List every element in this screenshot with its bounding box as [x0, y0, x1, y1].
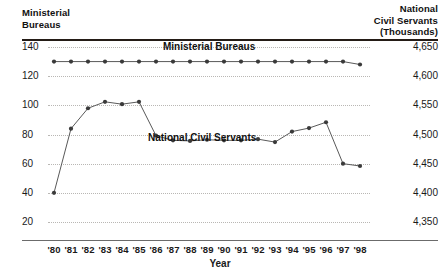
right-axis-tick-label: 4,600: [404, 71, 438, 81]
x-axis-tick-label: '94: [286, 244, 299, 255]
right-axis-tick-label: 4,500: [404, 130, 438, 140]
x-axis-tick-label: '83: [99, 244, 112, 255]
left-axis-tick-label: 80: [22, 130, 46, 140]
data-point-marker: [239, 59, 243, 63]
data-point-marker: [222, 59, 226, 63]
right-axis-tick-label: 4,400: [404, 188, 438, 198]
series-label-ministerial-bureaus: Ministerial Bureaus: [163, 41, 255, 52]
data-point-marker: [341, 59, 345, 63]
x-axis-tick-label: '85: [133, 244, 146, 255]
gridline: [48, 222, 370, 223]
right-axis-tick-label: 4,350: [404, 217, 438, 227]
data-point-marker: [205, 59, 209, 63]
data-point-marker: [69, 59, 73, 63]
data-point-marker: [69, 127, 73, 131]
data-point-marker: [341, 162, 345, 166]
x-axis-tick-label: '97: [337, 244, 350, 255]
x-axis-tick-label: '96: [320, 244, 333, 255]
x-axis-tick-label: '87: [167, 244, 180, 255]
right-axis-tick-label: 4,650: [404, 42, 438, 52]
left-axis-title: Ministerial Bureaus: [22, 7, 70, 30]
x-axis-tick-label: '82: [82, 244, 95, 255]
right-axis-tick-label: 4,450: [404, 159, 438, 169]
data-point-marker: [120, 59, 124, 63]
right-axis-title: National Civil Servants (Thousands): [374, 3, 438, 38]
x-axis-tick-label: '93: [269, 244, 282, 255]
data-point-marker: [103, 100, 107, 104]
right-axis-tick-label: 4,550: [404, 100, 438, 110]
series-label-national-civil-servants: National Civil Servants: [148, 132, 256, 143]
x-axis-tick-label: '88: [184, 244, 197, 255]
data-point-marker: [256, 137, 260, 141]
data-point-marker: [290, 129, 294, 133]
data-point-marker: [52, 191, 56, 195]
data-point-marker: [307, 126, 311, 130]
left-axis-tick-label: 120: [22, 71, 46, 81]
data-point-marker: [86, 106, 90, 110]
data-point-marker: [358, 164, 362, 168]
data-point-marker: [256, 59, 260, 63]
x-axis-ticks: '80'81'82'83'84'85'86'87'88'89'90'91'92'…: [48, 244, 370, 258]
data-point-marker: [324, 59, 328, 63]
x-axis-tick-label: '89: [201, 244, 214, 255]
x-axis-tick-label: '86: [150, 244, 163, 255]
data-point-marker: [103, 59, 107, 63]
x-axis-title: Year: [0, 258, 440, 269]
data-point-marker: [137, 100, 141, 104]
x-axis-tick-label: '95: [303, 244, 316, 255]
series-line-national-civil-servants: [54, 102, 360, 193]
left-axis-tick-label: 20: [22, 217, 46, 227]
x-axis-tick-label: '81: [65, 244, 78, 255]
x-axis-tick-label: '90: [218, 244, 231, 255]
data-point-marker: [86, 59, 90, 63]
data-point-marker: [52, 59, 56, 63]
data-point-marker: [273, 140, 277, 144]
data-point-marker: [171, 59, 175, 63]
x-axis-tick-label: '98: [354, 244, 367, 255]
chart-container: Ministerial Bureaus National Civil Serva…: [0, 0, 440, 278]
left-axis-tick-label: 60: [22, 159, 46, 169]
left-axis-tick-label: 100: [22, 100, 46, 110]
left-axis-tick-label: 140: [22, 42, 46, 52]
x-axis-baseline: [22, 240, 438, 241]
data-point-marker: [307, 59, 311, 63]
x-axis-tick-label: '92: [252, 244, 265, 255]
data-point-marker: [290, 59, 294, 63]
left-axis-tick-label: 40: [22, 188, 46, 198]
data-point-marker: [137, 59, 141, 63]
data-point-marker: [120, 102, 124, 106]
data-point-marker: [324, 120, 328, 124]
data-point-marker: [358, 62, 362, 66]
data-point-marker: [154, 59, 158, 63]
data-point-marker: [188, 59, 192, 63]
x-axis-tick-label: '80: [48, 244, 61, 255]
x-axis-tick-label: '91: [235, 244, 248, 255]
data-point-marker: [273, 59, 277, 63]
x-axis-tick-label: '84: [116, 244, 129, 255]
